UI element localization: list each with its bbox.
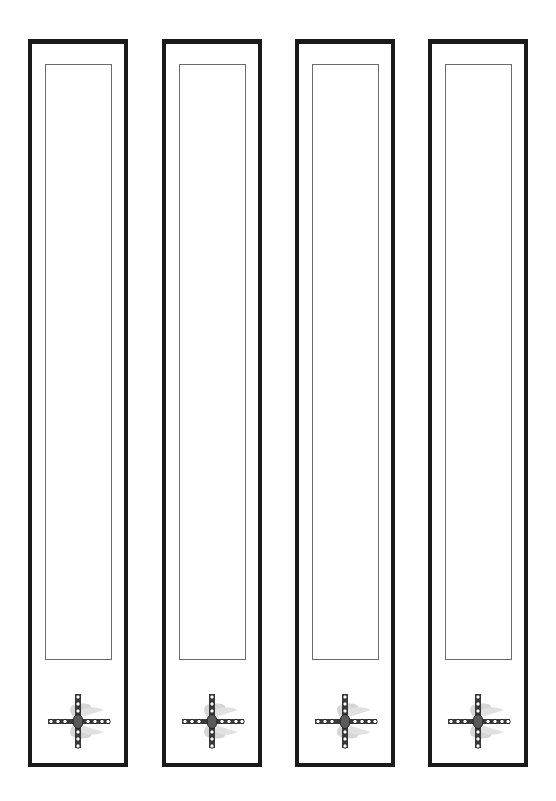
bookmark-4 [428, 39, 528, 767]
bookmark-3 [295, 39, 395, 767]
winged-cross-icon [311, 690, 381, 752]
winged-cross-icon [178, 690, 248, 752]
bookmark-text-area [45, 64, 112, 660]
winged-cross-icon [44, 690, 114, 752]
bookmark-1 [28, 39, 128, 767]
bookmark-text-area [179, 64, 246, 660]
bookmark-2 [162, 39, 262, 767]
bookmark-text-area [312, 64, 379, 660]
bookmark-text-area [445, 64, 512, 660]
winged-cross-icon [444, 690, 514, 752]
